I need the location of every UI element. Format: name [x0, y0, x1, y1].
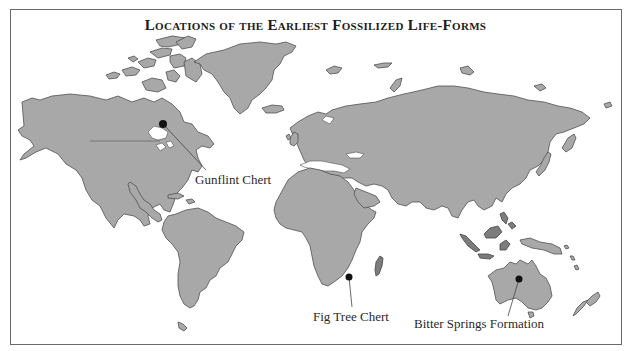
new-guinea: [520, 238, 562, 254]
north-america: [18, 94, 214, 228]
new-zealand: [586, 292, 600, 306]
greenland: [194, 42, 296, 114]
arctic-islands: [106, 36, 202, 92]
australia: [488, 260, 552, 310]
south-america: [162, 208, 244, 308]
label-bitter-springs-formation: Bitter Springs Formation: [414, 316, 544, 332]
label-fig-tree-chert: Fig Tree Chert: [313, 309, 389, 325]
fig-tree-marker: [346, 274, 353, 308]
label-gunflint-chert: Gunflint Chert: [195, 172, 271, 188]
world-map: [0, 0, 631, 351]
map-title: Locations of the Earliest Fossilized Lif…: [0, 17, 631, 34]
africa: [274, 168, 376, 286]
madagascar: [375, 256, 383, 276]
iceland: [262, 105, 284, 113]
